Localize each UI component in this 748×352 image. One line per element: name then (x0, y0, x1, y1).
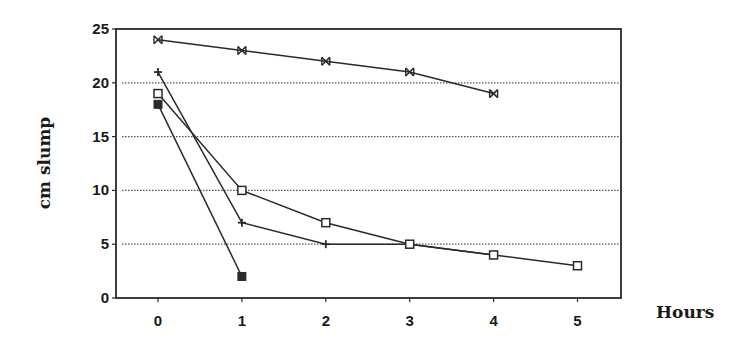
y-tick-label: 25 (92, 20, 109, 37)
plot-frame (116, 29, 621, 298)
y-tick-label: 5 (101, 235, 109, 252)
x-tick-label: 3 (406, 312, 414, 329)
y-tick-label: 20 (92, 74, 109, 91)
x-axis: 012345 (154, 298, 582, 329)
open-square-marker-icon (154, 90, 162, 98)
plus-series (154, 68, 498, 259)
y-tick-label: 0 (101, 289, 109, 306)
open-square-marker-icon (322, 219, 330, 227)
series-line (158, 72, 494, 255)
open-square-marker-icon (490, 251, 498, 259)
plus-marker-icon (238, 219, 246, 227)
x-axis-title: Hours (656, 302, 714, 322)
plus-marker-icon (154, 68, 162, 76)
filled-square-marker-icon (154, 100, 162, 108)
filled-square-marker-icon (238, 272, 246, 280)
x-tick-label: 5 (573, 312, 581, 329)
gridlines (122, 83, 619, 244)
plus-marker-icon (322, 240, 330, 248)
slump-line-chart: 0510152025 012345 cm slump Hours (0, 0, 748, 352)
open-square-marker-icon (574, 262, 582, 270)
x-tick-label: 2 (322, 312, 330, 329)
asterisk-series (154, 36, 498, 98)
x-tick-label: 0 (154, 312, 162, 329)
open-square-marker-icon (406, 240, 414, 248)
y-tick-label: 10 (92, 181, 109, 198)
x-tick-label: 4 (489, 312, 498, 329)
open-square-marker-icon (238, 186, 246, 194)
y-axis-title: cm slump (34, 117, 54, 210)
series-line (158, 94, 578, 266)
y-tick-label: 15 (92, 128, 109, 145)
chart-canvas: 0510152025 012345 cm slump Hours (0, 0, 748, 352)
plot-border (116, 29, 621, 298)
y-axis: 0510152025 (92, 20, 116, 306)
series-line (158, 40, 494, 94)
x-tick-label: 1 (238, 312, 246, 329)
